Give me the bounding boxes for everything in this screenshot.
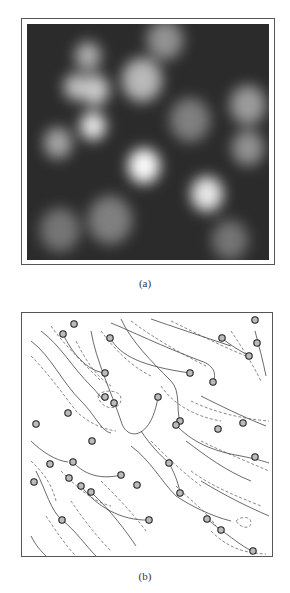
defect-marker-circle: [107, 335, 113, 341]
panel-b-contour-plot: [21, 312, 273, 557]
defect-marker-circle: [66, 475, 72, 481]
defect-marker-circle: [146, 517, 152, 523]
defect-marker-circle: [134, 482, 140, 488]
defect-marker-circle: [218, 527, 224, 533]
defect-marker-circle: [177, 490, 183, 496]
defect-marker-circle: [78, 483, 84, 489]
intensity-blob: [80, 112, 106, 141]
intensity-blob: [232, 130, 264, 165]
intensity-blob: [191, 176, 223, 211]
intensity-blob: [230, 85, 266, 125]
panel-a-caption: (a): [0, 277, 290, 289]
defect-marker-circle: [204, 516, 210, 522]
defect-marker-circle: [59, 517, 65, 523]
defect-marker-circle: [102, 370, 108, 376]
defect-marker-circle: [71, 321, 77, 327]
defect-marker-circle: [219, 335, 225, 341]
defect-marker-circle: [187, 370, 193, 376]
defect-marker-circle: [33, 421, 39, 427]
defect-marker-circle: [89, 438, 95, 444]
defect-marker-circle: [252, 454, 258, 460]
panel-a-intensity-image: [27, 24, 269, 260]
defect-marker-circle: [65, 410, 71, 416]
intensity-blob: [122, 58, 162, 102]
defect-marker-circle: [60, 331, 66, 337]
defect-marker-circle: [254, 340, 260, 346]
defect-marker-circle: [102, 394, 108, 400]
defect-marker-circle: [250, 548, 256, 554]
defect-marker-circle: [252, 317, 258, 323]
intensity-blob: [75, 42, 101, 71]
intensity-blob: [88, 196, 132, 244]
defect-marker-circle: [240, 420, 246, 426]
defect-marker-circle: [31, 479, 37, 485]
intensity-blob: [40, 208, 80, 252]
intensity-blob: [44, 128, 72, 159]
panel-b-caption: (b): [0, 570, 290, 582]
defect-marker-circle: [155, 394, 161, 400]
defect-marker-circle: [173, 422, 179, 428]
intensity-blob: [170, 98, 210, 142]
panel-b-frame: [21, 312, 273, 557]
defect-marker-circle: [70, 459, 76, 465]
defect-marker-circle: [47, 461, 53, 467]
intensity-blob: [64, 74, 88, 100]
intensity-blob: [212, 220, 248, 260]
defect-marker-circle: [111, 400, 117, 406]
intensity-blob: [128, 148, 160, 183]
defect-marker-circle: [166, 460, 172, 466]
defect-marker-circle: [118, 472, 124, 478]
defect-marker-circle: [246, 353, 252, 359]
defect-marker-circle: [88, 489, 94, 495]
defect-marker-circle: [210, 379, 216, 385]
defect-marker-circle: [215, 426, 221, 432]
